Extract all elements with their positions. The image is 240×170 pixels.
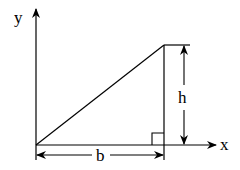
base-label: b <box>96 146 105 165</box>
hypotenuse <box>36 45 164 145</box>
height-label: h <box>178 88 187 107</box>
right-angle-marker <box>152 133 164 145</box>
y-axis-label: y <box>14 8 23 27</box>
triangle-diagram: h b y x <box>0 0 240 170</box>
x-axis-label: x <box>220 135 229 154</box>
